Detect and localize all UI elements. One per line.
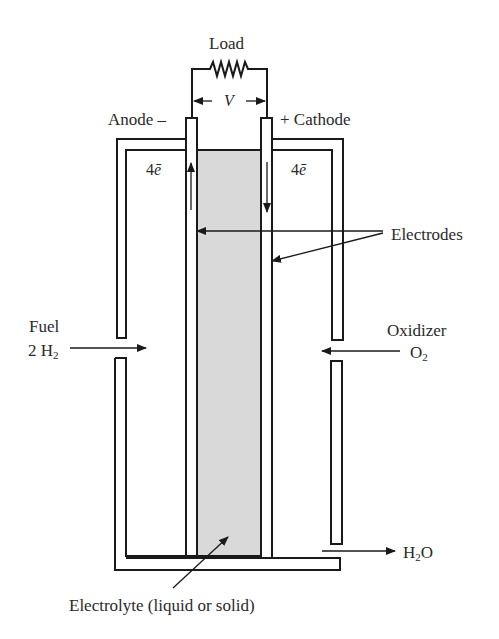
oxidizer-formula-text: O — [410, 343, 422, 362]
electron-count: 4 — [291, 161, 299, 178]
oxidizer-formula-subscript: 2 — [422, 351, 428, 363]
fuel-formula-subscript: 2 — [53, 349, 59, 361]
electrons-left-label: 4ē — [146, 162, 161, 178]
voltage-label: V — [224, 93, 234, 109]
fuel-label: Fuel — [29, 318, 59, 335]
electron-symbol: ē — [154, 161, 161, 178]
water-formula-h: H — [403, 543, 415, 562]
water-formula: H2O — [403, 544, 433, 561]
load-label: Load — [209, 35, 244, 52]
electrodes-label: Electrodes — [391, 226, 463, 243]
anode-housing-lower-left — [115, 358, 126, 545]
oxidizer-label: Oxidizer — [387, 322, 446, 339]
oxidizer-formula: O2 — [410, 344, 428, 361]
electrodes-pointer-cathode — [272, 233, 383, 261]
fuel-formula: 2 H2 — [28, 342, 59, 359]
electrolyte-label: Electrolyte (liquid or solid) — [69, 597, 255, 614]
cathode-label: + Cathode — [280, 111, 351, 128]
electron-symbol: ē — [299, 161, 306, 178]
electrons-right-label: 4ē — [291, 162, 306, 178]
cathode-housing-lower-wall — [331, 361, 342, 544]
anode-label: Anode – — [108, 111, 166, 128]
electrolyte-region — [198, 150, 260, 556]
fuel-formula-text: 2 H — [28, 341, 53, 360]
external-circuit-wire — [192, 62, 267, 118]
anode-chamber-inner — [126, 358, 186, 556]
water-formula-o: O — [421, 543, 433, 562]
electron-count: 4 — [146, 161, 154, 178]
cathode-housing-outer — [272, 139, 343, 340]
